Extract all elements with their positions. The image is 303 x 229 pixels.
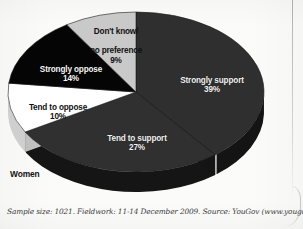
page-curl-edge — [286, 186, 301, 226]
source-footnote: Sample size: 1021. Fieldwork: 11-14 Dece… — [7, 207, 297, 216]
pie-chart-figure: Strongly support 39% Tend to support 27%… — [0, 0, 303, 229]
page-edge-rule — [292, 0, 293, 195]
chart-area: Strongly support 39% Tend to support 27%… — [0, 0, 303, 200]
group-caption: Women — [10, 169, 40, 179]
pie-chart-svg — [0, 0, 303, 200]
